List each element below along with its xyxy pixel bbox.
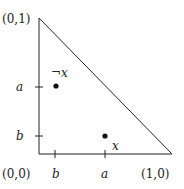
y-tick-a-label: a — [16, 80, 23, 94]
y-tick-b-label: b — [16, 129, 24, 143]
simplex-diagram: (0,1) (0,0) (1,0) a b b a ¬x x — [0, 0, 184, 189]
x-tick-b-label: b — [52, 167, 60, 181]
point-not-x-label: ¬x — [51, 66, 68, 80]
point-not-x — [53, 83, 58, 88]
corner-origin-label: (0,0) — [2, 167, 30, 181]
corner-right-label: (1,0) — [141, 167, 169, 181]
point-x-label: x — [112, 139, 119, 153]
corner-top-label: (0,1) — [2, 12, 30, 26]
x-tick-a-label: a — [101, 167, 108, 181]
point-x — [102, 133, 107, 138]
